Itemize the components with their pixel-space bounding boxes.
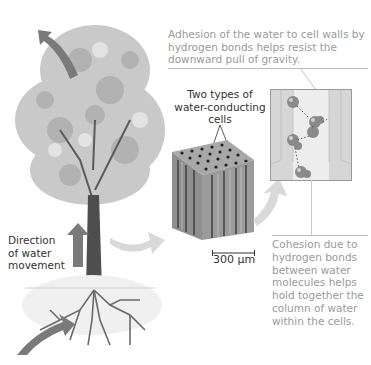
up-arrow-icon [67, 223, 89, 267]
two-types-label: Two types of water-conducting cells [170, 88, 270, 126]
cohesion-label: Cohesion due to hydrogen bonds between w… [272, 238, 370, 328]
transpiration-arrow-icon [30, 25, 90, 85]
direction-line-3: movement [8, 259, 68, 272]
two-types-line-3: cells [170, 113, 270, 126]
two-types-line-2: water-conducting [170, 101, 270, 114]
adhesion-rule [168, 68, 368, 69]
direction-line-2: of water [8, 247, 68, 260]
root-uptake-arrow-icon [15, 310, 75, 355]
trunk-to-micrograph-arrow-icon [110, 220, 165, 255]
direction-line-1: Direction [8, 234, 68, 247]
cohesion-pointer-line [311, 180, 312, 235]
micrograph-to-closeup-arrow-icon [253, 178, 287, 226]
adhesion-label: Adhesion of the water to cell walls by h… [168, 28, 368, 66]
two-types-line-1: Two types of [170, 88, 270, 101]
scale-bar-label: 300 µm [213, 254, 258, 267]
cohesion-rule [272, 235, 368, 236]
xylem-micrograph [172, 140, 254, 240]
water-molecule-closeup [270, 89, 352, 181]
direction-label: Direction of water movement [8, 234, 68, 272]
